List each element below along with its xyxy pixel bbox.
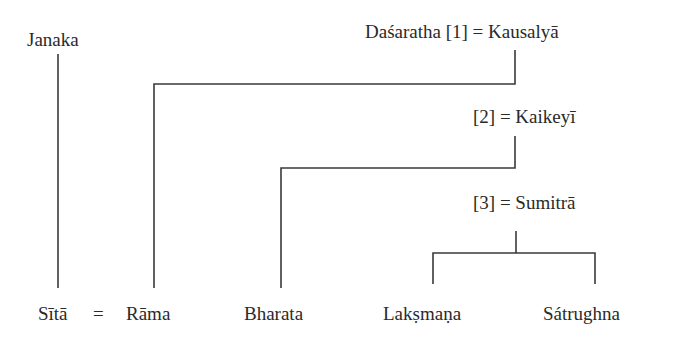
rama-label: Rāma	[126, 303, 170, 325]
sumitra-children-bracket	[433, 253, 595, 284]
dasaratha-kausalya-label: Daśaratha [1] = Kausalyā	[365, 21, 559, 43]
bharata-label: Bharata	[244, 303, 303, 325]
sita-label: Sītā	[38, 303, 68, 325]
marriage-sign: =	[93, 303, 104, 325]
satrughna-label: Sátrughna	[543, 303, 620, 325]
kaikeyi-label: [2] = Kaikeyī	[473, 106, 576, 128]
sumitra-label: [3] = Sumitrā	[473, 192, 576, 214]
connector-lines	[0, 0, 673, 348]
laksmana-label: Lakṣmaṇa	[383, 303, 461, 325]
janaka-label: Janaka	[27, 29, 79, 51]
